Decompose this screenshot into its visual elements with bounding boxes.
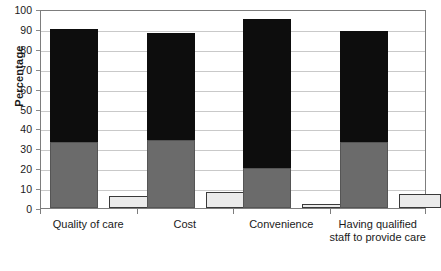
stacked-bar: [340, 31, 388, 208]
x-tick-label: Convenience: [233, 218, 330, 231]
bar-segment-somewhat-important: [50, 142, 98, 208]
y-tick-label: 60: [20, 85, 32, 95]
bar-segment-very-important: [243, 19, 291, 168]
bar-segment-somewhat-important: [340, 142, 388, 208]
bar-segment-somewhat-important: [243, 168, 291, 208]
stacked-bar: [243, 19, 291, 208]
bar-group: [138, 11, 235, 208]
stacked-bar: [50, 29, 98, 208]
y-tick-label: 30: [20, 144, 32, 154]
bar-group: [41, 11, 138, 208]
x-axis-ticks: [40, 209, 426, 215]
bars-layer: [41, 11, 425, 208]
y-tick-label: 0: [26, 204, 32, 214]
y-tick-label: 70: [20, 65, 32, 75]
x-tick-mark: [233, 209, 234, 214]
y-tick-label: 50: [20, 105, 32, 115]
bar-segment-very-important: [147, 33, 195, 140]
x-axis-tick-labels: Quality of careCostConvenienceHaving qua…: [40, 218, 426, 271]
x-tick-label: Having qualified staff to provide care: [330, 218, 427, 244]
bar-group: [234, 11, 331, 208]
y-tick-label: 20: [20, 164, 32, 174]
bar-segment-not-important: [399, 194, 441, 208]
y-tick-label: 100: [14, 5, 32, 15]
y-tick-label: 10: [20, 184, 32, 194]
bar-segment-very-important: [340, 31, 388, 142]
y-tick-label: 90: [20, 25, 32, 35]
stacked-bar: [147, 33, 195, 208]
bar-group: [331, 11, 428, 208]
x-tick-mark: [330, 209, 331, 214]
bar-segment-very-important: [50, 29, 98, 142]
x-tick-mark: [137, 209, 138, 214]
x-tick-label: Cost: [137, 218, 234, 231]
y-tick-label: 80: [20, 45, 32, 55]
y-tick-label: 40: [20, 124, 32, 134]
y-axis-tick-labels: 0102030405060708090100: [0, 0, 36, 271]
x-tick-label: Quality of care: [40, 218, 137, 231]
x-tick-mark: [425, 209, 426, 214]
plot-area: [40, 10, 426, 209]
x-tick-mark: [40, 209, 41, 214]
bar-segment-somewhat-important: [147, 140, 195, 208]
